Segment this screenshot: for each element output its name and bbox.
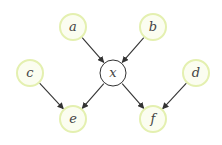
node-x: x bbox=[100, 60, 126, 86]
node-label-a: a bbox=[69, 19, 77, 34]
edge-x-to-f bbox=[122, 84, 144, 109]
node-d: d bbox=[183, 60, 209, 86]
node-e: e bbox=[60, 106, 86, 132]
node-label-x: x bbox=[109, 65, 117, 80]
node-b: b bbox=[140, 14, 166, 40]
node-f: f bbox=[140, 106, 166, 132]
nodes-group: abcxdef bbox=[17, 14, 209, 132]
edge-c-to-e bbox=[40, 83, 64, 109]
node-label-c: c bbox=[26, 65, 34, 80]
node-label-e: e bbox=[69, 111, 77, 126]
edge-a-to-x bbox=[82, 38, 104, 63]
edge-x-to-e bbox=[82, 84, 104, 109]
edge-d-to-f bbox=[163, 83, 187, 109]
node-c: c bbox=[17, 60, 43, 86]
node-label-b: b bbox=[149, 19, 157, 34]
node-label-d: d bbox=[192, 65, 200, 80]
node-a: a bbox=[60, 14, 86, 40]
edge-b-to-x bbox=[122, 38, 144, 63]
graph-canvas: abcxdef bbox=[0, 0, 222, 145]
